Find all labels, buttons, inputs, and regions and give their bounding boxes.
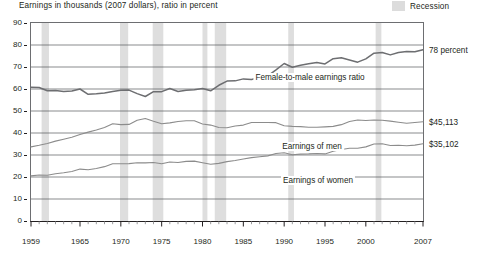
y-tick-mark: [24, 177, 27, 178]
y-tick-label: 70: [13, 63, 22, 71]
x-tick-label: 1980: [194, 238, 212, 246]
y-axis-labels: 0102030405060708090: [0, 0, 27, 254]
recession-band: [120, 23, 128, 221]
chart-title: Earnings in thousands (2007 dollars), ra…: [19, 1, 218, 10]
plot-area: [30, 22, 424, 222]
series-label-0: Female-to-male earnings ratio: [253, 73, 366, 82]
x-tick-label: 1990: [275, 238, 293, 246]
y-tick-label: 20: [13, 173, 22, 181]
series-label-1: Earnings of men: [280, 142, 344, 151]
callout-men: $45,113: [429, 118, 458, 127]
recession-band: [203, 23, 208, 221]
recession-band: [288, 23, 294, 221]
earnings-chart: Earnings in thousands (2007 dollars), ra…: [0, 0, 488, 254]
y-tick-mark: [24, 221, 27, 222]
y-tick-mark: [24, 23, 27, 24]
legend-item-recession: Recession: [410, 2, 449, 11]
y-tick-label: 50: [13, 107, 22, 115]
x-tick-group: [31, 221, 423, 227]
x-tick-label: 1995: [316, 238, 334, 246]
series-line-2: [31, 144, 423, 176]
y-tick-label: 60: [13, 85, 22, 93]
y-tick-label: 90: [13, 19, 22, 27]
callout-ratio: 78 percent: [429, 46, 468, 55]
y-tick-label: 30: [13, 151, 22, 159]
y-tick-mark: [24, 133, 27, 134]
y-tick-mark: [24, 111, 27, 112]
x-tick-label: 1959: [22, 238, 40, 246]
y-tick-label: 0: [18, 217, 22, 225]
y-tick-label: 80: [13, 41, 22, 49]
x-tick-label: 1965: [71, 238, 89, 246]
x-tick-label: 1985: [234, 238, 252, 246]
callout-women: $35,102: [429, 140, 459, 149]
y-tick-mark: [24, 89, 27, 90]
y-tick-mark: [24, 45, 27, 46]
x-tick-label: 1970: [112, 238, 130, 246]
x-tick-label: 2007: [414, 238, 432, 246]
y-tick-mark: [24, 67, 27, 68]
y-tick-label: 40: [13, 129, 22, 137]
y-tick-mark: [24, 155, 27, 156]
plot-inner: [31, 23, 423, 221]
recession-band-swatch-icon: [392, 1, 405, 11]
series-canvas: [31, 23, 423, 228]
recession-band: [42, 23, 49, 221]
x-tick-label: 2000: [357, 238, 375, 246]
x-tick-label: 1975: [153, 238, 171, 246]
y-tick-mark: [24, 199, 27, 200]
series-label-2: Earnings of women: [281, 176, 355, 185]
x-axis-labels: 1959196519701975198019851990199520002007: [0, 232, 488, 246]
y-tick-label: 10: [13, 195, 22, 203]
recession-band: [215, 23, 226, 221]
legend: Recession: [392, 1, 449, 11]
